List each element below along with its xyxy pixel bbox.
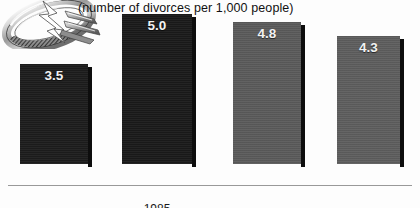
- bar-1996: [337, 36, 400, 164]
- bar-group-1992: 4.8 1992: [233, 22, 301, 164]
- bar-shadow: [88, 67, 92, 167]
- x-tick-label-1985: 1985: [122, 202, 192, 208]
- divorce-rate-bar-chart: (number of divorces per 1,000 people) 3.…: [0, 0, 420, 208]
- bar-shadow: [400, 39, 404, 167]
- bar-1992: [233, 22, 301, 164]
- bar-value-1970: 3.5: [20, 68, 88, 83]
- plot-area: 3.5 1970 5.0 1985 4.8 1992 4.3 1996: [0, 0, 420, 186]
- bar-shadow: [301, 25, 305, 167]
- bar-group-1985: 5.0 1985: [122, 14, 192, 164]
- bar-1985: [122, 14, 192, 164]
- bar-value-1992: 4.8: [233, 26, 301, 41]
- bar-value-1996: 4.3: [337, 40, 400, 55]
- x-axis-line: [8, 185, 412, 186]
- bar-value-1985: 5.0: [122, 18, 192, 33]
- bar-shadow: [192, 17, 196, 167]
- bar-group-1996: 4.3 1996: [337, 36, 400, 164]
- bar-group-1970: 3.5 1970: [20, 64, 88, 164]
